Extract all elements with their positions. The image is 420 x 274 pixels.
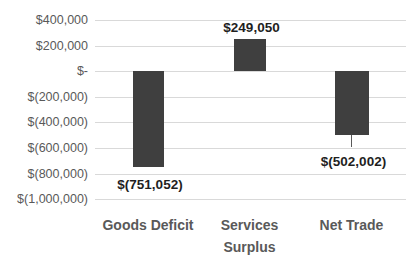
bar-services-surplus [234,39,266,71]
y-tick-label: $(1,000,000) [0,191,88,207]
y-tick-label: $(600,000) [0,140,88,156]
gridline [95,174,406,175]
y-tick-label: $(800,000) [0,166,88,182]
data-label: $(751,052) [117,177,182,193]
y-tick-label: $400,000 [0,12,88,28]
data-label-leader-line [351,135,353,147]
y-tick-label: $200,000 [0,38,88,54]
category-label: Goods Deficit [100,214,196,236]
data-label: $(502,002) [321,154,386,170]
category-label: Net Trade [304,214,400,236]
data-label: $249,050 [223,20,279,36]
y-tick-label: $- [0,63,88,79]
bar-chart: $400,000$200,000$-$(200,000)$(400,000)$(… [0,0,420,274]
gridline [95,199,406,200]
bar-goods-deficit [133,71,164,167]
bar-net-trade [335,71,369,135]
category-label: Services Surplus [202,214,298,258]
y-tick-label: $(200,000) [0,89,88,105]
y-tick-label: $(400,000) [0,114,88,130]
